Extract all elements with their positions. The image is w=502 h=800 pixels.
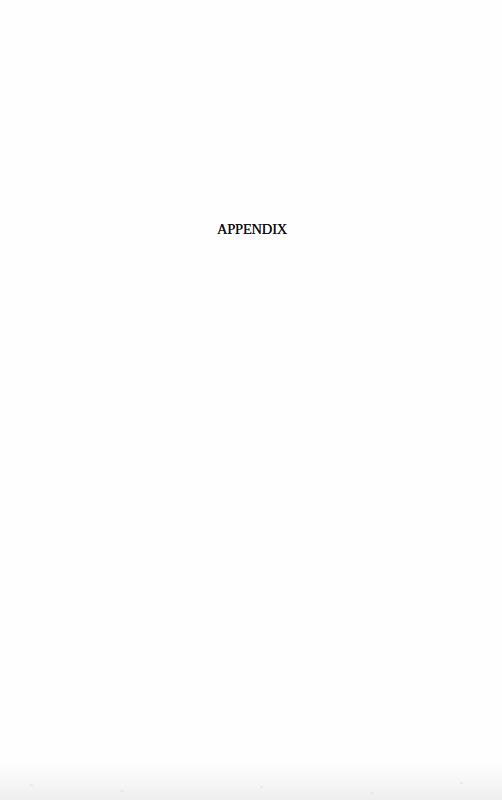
scan-speck (260, 786, 263, 788)
scan-texture-bottom-edge (0, 760, 502, 800)
scan-speck (460, 782, 463, 784)
document-page: APPENDIX (0, 0, 502, 800)
scan-speck (120, 790, 124, 792)
page-heading: APPENDIX (0, 221, 502, 238)
scan-speck (30, 784, 33, 786)
scan-speck (370, 792, 374, 794)
